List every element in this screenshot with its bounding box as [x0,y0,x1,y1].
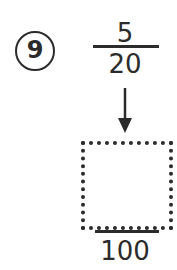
problem-number: 9 [27,38,44,62]
down-arrow-icon [115,88,135,134]
fraction-numerator: 5 [90,20,160,46]
answer-denominator: 100 [90,238,160,264]
answer-fraction-bar [95,230,159,233]
fraction-denominator: 20 [90,51,160,77]
problem-number-badge: 9 [15,31,55,71]
answer-numerator-box[interactable] [81,141,173,230]
fraction-bar [93,45,159,48]
